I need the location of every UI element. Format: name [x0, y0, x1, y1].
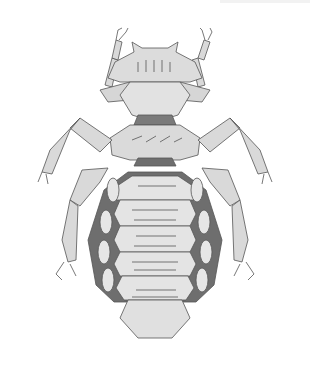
abdomen-segments — [114, 176, 196, 300]
thorax-mid — [110, 125, 200, 160]
abdomen-tail — [120, 300, 190, 338]
illustration-canvas — [0, 0, 310, 365]
head — [108, 42, 202, 82]
louse-illustration — [0, 0, 310, 365]
